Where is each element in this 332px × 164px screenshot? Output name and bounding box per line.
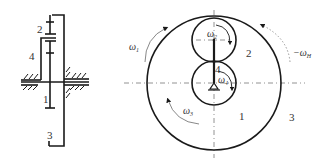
label-gear-3-side: 3 bbox=[47, 129, 53, 141]
label-gear-3: 3 bbox=[289, 111, 295, 123]
label-carrier-4-side: 4 bbox=[29, 50, 35, 62]
label-gear-2-side: 2 bbox=[37, 23, 43, 35]
label-omega-1: ω1 bbox=[129, 41, 139, 53]
carrier-4-link bbox=[41, 38, 56, 80]
label-gear-1-side: 1 bbox=[43, 93, 49, 105]
label-omega-3: ω3 bbox=[183, 105, 193, 117]
label-gear-2: 2 bbox=[246, 47, 252, 59]
label-omega-H: −ωH bbox=[293, 47, 312, 59]
label-omega-4: ω4 bbox=[218, 74, 228, 86]
label-gear-1: 1 bbox=[239, 110, 245, 122]
label-omega-2: ω2 bbox=[207, 28, 217, 40]
omega-1-arrow-icon bbox=[145, 28, 166, 62]
side-schematic bbox=[21, 15, 89, 146]
planetary-gear-diagram: 2 4 1 3 2 1 3 4 ω1 ω2 ω3 ω4 −ωH bbox=[0, 0, 332, 164]
